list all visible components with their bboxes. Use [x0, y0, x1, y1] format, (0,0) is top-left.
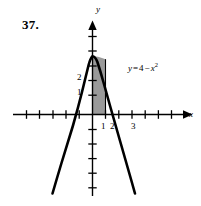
- y-axis-arrowhead: [88, 21, 96, 31]
- x-tick-label-1: 1: [101, 122, 106, 131]
- x-tick-label-2: 2: [110, 122, 115, 131]
- equation-exponent: 2: [155, 61, 158, 68]
- equation-minus: −: [144, 63, 151, 73]
- curve-equation-label: y=4−x2: [128, 62, 158, 73]
- y-axis-label: y: [96, 5, 100, 14]
- equation-constant: 4: [139, 63, 144, 73]
- y-tick-label-1: 1: [77, 88, 82, 97]
- x-axis-label: x: [189, 110, 193, 119]
- figure-container: 37.: [0, 0, 201, 206]
- x-tick-label-3: 3: [131, 122, 136, 131]
- parabola-plot: [0, 0, 201, 206]
- y-tick-label-2: 2: [77, 73, 82, 82]
